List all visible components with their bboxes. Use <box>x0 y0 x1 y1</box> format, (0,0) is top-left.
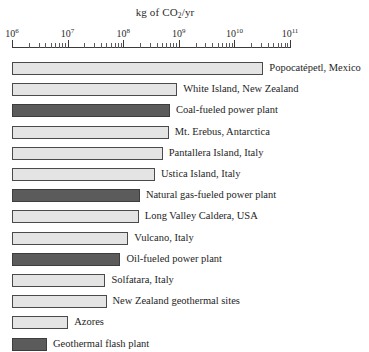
bar-label: Mt. Erebus, Antarctica <box>175 125 270 139</box>
bar-label: Azores <box>74 315 104 329</box>
bar-label: Pantallera Island, Italy <box>169 146 264 160</box>
bar-power-plant[interactable] <box>12 338 47 351</box>
bar-label: Natural gas-fueled power plant <box>146 188 276 202</box>
bar-label: Ustica Island, Italy <box>161 167 241 181</box>
bar-row[interactable]: Natural gas-fueled power plant <box>0 189 369 203</box>
bar-natural-source[interactable] <box>12 232 128 245</box>
bar-label: Popocatépetl, Mexico <box>269 61 361 75</box>
bar-natural-source[interactable] <box>12 147 163 160</box>
bar-power-plant[interactable] <box>12 189 140 202</box>
bar-natural-source[interactable] <box>12 316 68 329</box>
bar-label: Geothermal flash plant <box>53 337 149 351</box>
bar-row[interactable]: Azores <box>0 316 369 330</box>
bar-row[interactable]: Popocatépetl, Mexico <box>0 62 369 76</box>
bar-row[interactable]: Pantallera Island, Italy <box>0 147 369 161</box>
bar-label: White Island, New Zealand <box>183 82 298 96</box>
bar-label: Coal-fueled power plant <box>176 103 278 117</box>
bar-label: Vulcano, Italy <box>134 231 193 245</box>
bar-power-plant[interactable] <box>12 104 170 117</box>
bar-power-plant[interactable] <box>12 253 120 266</box>
bar-label: Solfatara, Italy <box>111 273 173 287</box>
bar-row[interactable]: Ustica Island, Italy <box>0 168 369 182</box>
bar-row[interactable]: Geothermal flash plant <box>0 338 369 352</box>
bar-row[interactable]: Coal-fueled power plant <box>0 104 369 118</box>
bar-row[interactable]: Mt. Erebus, Antarctica <box>0 126 369 140</box>
bar-row[interactable]: White Island, New Zealand <box>0 83 369 97</box>
bar-label: Long Valley Caldera, USA <box>145 209 258 223</box>
bar-natural-source[interactable] <box>12 274 105 287</box>
bar-row[interactable]: Long Valley Caldera, USA <box>0 210 369 224</box>
bar-row[interactable]: Vulcano, Italy <box>0 232 369 246</box>
bar-label: Oil-fueled power plant <box>126 252 222 266</box>
bar-natural-source[interactable] <box>12 83 177 96</box>
bar-natural-source[interactable] <box>12 126 169 139</box>
bar-natural-source[interactable] <box>12 295 107 308</box>
bar-natural-source[interactable] <box>12 168 155 181</box>
bar-row[interactable]: Oil-fueled power plant <box>0 253 369 267</box>
bar-row[interactable]: New Zealand geothermal sites <box>0 295 369 309</box>
bar-label: New Zealand geothermal sites <box>113 294 240 308</box>
bar-natural-source[interactable] <box>12 62 263 75</box>
bar-row[interactable]: Solfatara, Italy <box>0 274 369 288</box>
bar-natural-source[interactable] <box>12 210 139 223</box>
